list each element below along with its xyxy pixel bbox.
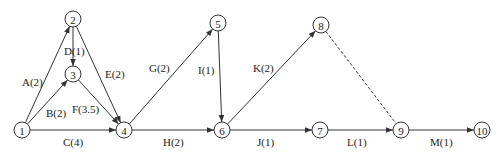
network-diagram: A(2)B(2)C(4)D(1)E(2)F(3.5)G(2)I(1)H(2)K(… (0, 0, 500, 158)
node-label: 2 (70, 14, 76, 26)
node-9: 9 (393, 122, 409, 138)
edge-label: H(2) (163, 136, 184, 149)
edge-label: J(1) (257, 136, 274, 149)
node-label: 9 (398, 125, 404, 137)
node-1: 1 (14, 122, 30, 138)
edge-label: K(2) (253, 62, 274, 75)
network-diagram-canvas: A(2)B(2)C(4)D(1)E(2)F(3.5)G(2)I(1)H(2)K(… (0, 0, 500, 158)
node-2: 2 (65, 11, 81, 27)
edge-label: I(1) (198, 64, 215, 77)
edge-8-9 (326, 31, 396, 123)
edge-labels-layer: A(2)B(2)C(4)D(1)E(2)F(3.5)G(2)I(1)H(2)K(… (22, 45, 453, 149)
node-3: 3 (65, 66, 81, 82)
node-label: 8 (318, 20, 324, 32)
node-label: 5 (215, 18, 221, 30)
edge-6-8 (227, 31, 315, 124)
node-label: 10 (477, 125, 489, 137)
edge-label: B(2) (46, 107, 67, 120)
edge-label: A(2) (22, 76, 43, 89)
edge-label: D(1) (64, 45, 85, 58)
node-label: 4 (121, 125, 127, 137)
edge-label: F(3.5) (72, 103, 100, 116)
node-label: 6 (219, 125, 225, 137)
node-7: 7 (312, 122, 328, 138)
edge-label: C(4) (63, 136, 84, 149)
node-5: 5 (210, 15, 226, 31)
edge-label: L(1) (347, 136, 367, 149)
node-8: 8 (313, 17, 329, 33)
nodes-layer: 12345678910 (14, 11, 490, 138)
node-10: 10 (474, 122, 490, 138)
node-label: 1 (19, 125, 25, 137)
node-4: 4 (116, 122, 132, 138)
edge-4-5 (129, 29, 212, 124)
node-label: 7 (317, 125, 323, 137)
node-label: 3 (70, 69, 76, 81)
edge-label: G(2) (149, 62, 170, 75)
edge-5-6 (218, 31, 221, 122)
node-6: 6 (214, 122, 230, 138)
edge-label: E(2) (105, 68, 125, 81)
edge-label: M(1) (430, 136, 453, 149)
edge-3-4 (78, 80, 118, 124)
